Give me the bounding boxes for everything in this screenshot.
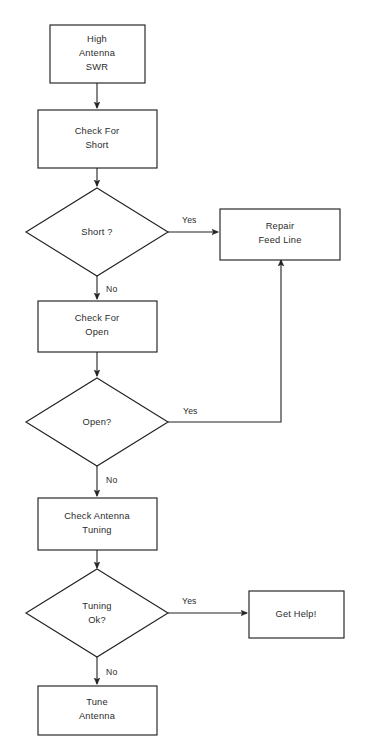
flowchart-svg: High Antenna SWR Check For Short Short ?… — [0, 0, 366, 750]
node-high-antenna-swr[interactable]: High Antenna SWR — [50, 25, 145, 83]
node-open-decision[interactable]: Open? — [26, 378, 168, 466]
tuning-ok-decision-label-line1: Tuning — [82, 601, 111, 611]
check-for-open-label-line1: Check For — [75, 313, 120, 323]
repair-feed-line-label-line1: Repair — [266, 221, 295, 231]
check-for-open-label-line2: Open — [85, 327, 109, 337]
short-decision-label: Short ? — [81, 227, 112, 237]
tune-antenna-label-line1: Tune — [86, 697, 108, 707]
tuning-ok-decision-diamond[interactable] — [26, 569, 168, 657]
flowchart-canvas: High Antenna SWR Check For Short Short ?… — [0, 0, 366, 750]
get-help-label: Get Help! — [275, 609, 316, 619]
edge-label-tuning-yes: Yes — [182, 596, 197, 606]
edge-label-short-no: No — [106, 284, 117, 294]
repair-feed-line-label-line2: Feed Line — [258, 235, 301, 245]
node-check-for-short[interactable]: Check For Short — [38, 110, 157, 168]
check-antenna-tuning-label-line2: Tuning — [82, 525, 111, 535]
tune-antenna-label-line2: Antenna — [79, 711, 116, 721]
node-short-decision[interactable]: Short ? — [26, 188, 168, 276]
node-check-antenna-tuning[interactable]: Check Antenna Tuning — [38, 498, 157, 550]
high-antenna-swr-label-line1: High — [87, 34, 107, 44]
check-for-short-label-line2: Short — [85, 140, 108, 150]
check-for-short-label-line1: Check For — [75, 126, 120, 136]
edge-label-open-yes: Yes — [183, 406, 198, 416]
tuning-ok-decision-label-line2: Ok? — [88, 615, 106, 625]
edge-label-short-yes: Yes — [182, 215, 197, 225]
high-antenna-swr-label-line3: SWR — [86, 62, 108, 72]
check-for-short-box[interactable] — [38, 110, 157, 168]
edge-label-open-no: No — [106, 475, 117, 485]
check-antenna-tuning-label-line1: Check Antenna — [64, 511, 130, 521]
node-tuning-ok-decision[interactable]: Tuning Ok? — [26, 569, 168, 657]
open-decision-label: Open? — [83, 417, 112, 427]
node-tune-antenna[interactable]: Tune Antenna — [38, 686, 157, 735]
connector-open-yes-to-repair — [168, 260, 281, 422]
node-get-help[interactable]: Get Help! — [249, 591, 344, 638]
check-antenna-tuning-box[interactable] — [38, 498, 157, 550]
high-antenna-swr-label-line2: Antenna — [79, 48, 116, 58]
node-repair-feed-line[interactable]: Repair Feed Line — [220, 209, 340, 260]
edge-label-tuning-no: No — [106, 667, 117, 677]
node-check-for-open[interactable]: Check For Open — [38, 301, 157, 352]
